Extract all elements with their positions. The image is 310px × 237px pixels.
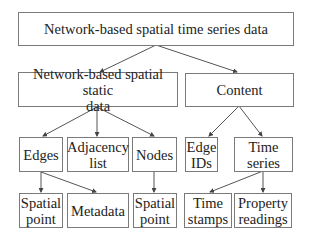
diagram-canvas: Network-based spatial time series data N… [0, 0, 310, 237]
arrow-edges-metadata [41, 172, 96, 192]
arrow-content-timeseries [239, 106, 262, 136]
node-edge-ids: Edge IDs [185, 137, 218, 172]
node-property-readings: Property readings [234, 193, 292, 228]
node-edges: Edges [19, 137, 63, 172]
node-adjacency: Adjacency list [67, 137, 129, 172]
node-metadata: Metadata [67, 193, 129, 228]
node-content: Content [185, 73, 294, 107]
arrow-content-edgeids [209, 106, 239, 136]
arrow-timeseries-timestamps [210, 171, 263, 192]
node-root: Network-based spatial time series data [18, 12, 294, 46]
node-nodes: Nodes [132, 137, 177, 172]
node-spatial-point-nodes: Spatial point [133, 193, 177, 228]
node-spatial-point-edges: Spatial point [19, 193, 63, 228]
node-static: Network-based spatial static data [18, 72, 178, 107]
node-time-stamps: Time stamps [184, 193, 232, 228]
node-time-series: Time series [234, 137, 293, 172]
